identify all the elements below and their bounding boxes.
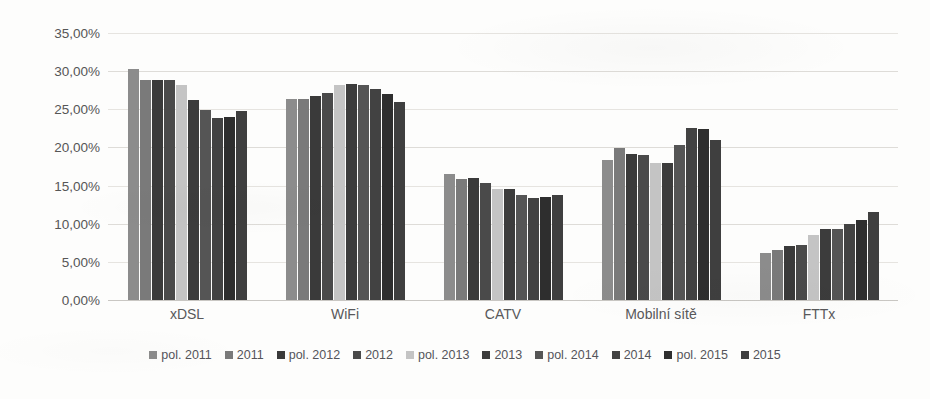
legend-swatch-icon <box>741 351 749 359</box>
bar <box>140 80 151 300</box>
bar <box>298 99 309 300</box>
chart-legend: pol. 20112011pol. 20122012pol. 20132013p… <box>0 348 930 362</box>
y-axis-tick-label: 15,00% <box>4 178 100 193</box>
legend-swatch-icon <box>225 351 233 359</box>
legend-item[interactable]: 2014 <box>612 348 652 362</box>
x-axis-tick-label: xDSL <box>170 306 204 322</box>
y-axis-tick-label: 30,00% <box>4 64 100 79</box>
bar <box>212 118 223 300</box>
bar <box>674 145 685 300</box>
bar <box>528 198 539 300</box>
bar-chart: 0,00%5,00%10,00%15,00%20,00%25,00%30,00%… <box>0 0 930 399</box>
bar <box>650 163 661 300</box>
bar <box>760 253 771 300</box>
legend-item[interactable]: 2015 <box>741 348 781 362</box>
bar <box>480 183 491 300</box>
legend-label: 2014 <box>624 348 652 362</box>
bar <box>382 94 393 300</box>
bar <box>152 80 163 300</box>
bar <box>310 96 321 300</box>
legend-label: 2011 <box>237 348 264 362</box>
bar-group <box>124 33 250 300</box>
bar-group <box>282 33 408 300</box>
y-axis: 0,00%5,00%10,00%15,00%20,00%25,00%30,00%… <box>0 33 100 300</box>
bar <box>286 99 297 300</box>
bar <box>614 148 625 300</box>
y-axis-tick-label: 0,00% <box>4 293 100 308</box>
bar <box>236 111 247 300</box>
gridline <box>108 300 898 301</box>
bar-group <box>756 33 882 300</box>
x-axis-tick-label: WiFi <box>331 306 359 322</box>
bar <box>346 84 357 300</box>
y-axis-tick-label: 25,00% <box>4 102 100 117</box>
legend-item[interactable]: pol. 2013 <box>406 348 469 362</box>
bar <box>224 117 235 300</box>
bar <box>540 197 551 300</box>
bar <box>698 129 709 300</box>
bar <box>662 163 673 300</box>
bar <box>796 245 807 300</box>
bar <box>552 195 563 300</box>
bar <box>456 179 467 300</box>
legend-swatch-icon <box>277 351 285 359</box>
legend-item[interactable]: pol. 2014 <box>535 348 598 362</box>
legend-label: pol. 2015 <box>676 348 727 362</box>
bar <box>784 246 795 300</box>
y-axis-tick-label: 20,00% <box>4 140 100 155</box>
bar <box>868 212 879 300</box>
y-axis-tick-label: 10,00% <box>4 216 100 231</box>
legend-swatch-icon <box>406 351 414 359</box>
legend-label: pol. 2011 <box>161 348 212 362</box>
bar <box>808 235 819 300</box>
bar <box>820 229 831 300</box>
bar-group <box>598 33 724 300</box>
bar <box>188 100 199 300</box>
bar-group <box>440 33 566 300</box>
bar <box>602 160 613 300</box>
legend-item[interactable]: 2012 <box>353 348 393 362</box>
legend-label: 2015 <box>753 348 781 362</box>
bar <box>504 189 515 300</box>
legend-swatch-icon <box>535 351 543 359</box>
bar <box>492 189 503 300</box>
legend-item[interactable]: pol. 2012 <box>277 348 340 362</box>
x-axis-tick-label: FTTx <box>803 306 836 322</box>
bar <box>200 110 211 300</box>
y-axis-tick-label: 5,00% <box>4 254 100 269</box>
bar <box>322 93 333 300</box>
legend-swatch-icon <box>664 351 672 359</box>
y-axis-tick-label: 35,00% <box>4 26 100 41</box>
bar <box>686 128 697 300</box>
x-axis-tick-label: CATV <box>485 306 521 322</box>
x-axis-tick-label: Mobilní sítě <box>625 306 697 322</box>
plot-area <box>108 33 898 300</box>
bar <box>856 220 867 300</box>
legend-item[interactable]: pol. 2015 <box>664 348 727 362</box>
bar <box>394 102 405 300</box>
legend-swatch-icon <box>612 351 620 359</box>
bar <box>176 85 187 300</box>
bar <box>370 89 381 300</box>
legend-swatch-icon <box>353 351 361 359</box>
legend-label: pol. 2013 <box>418 348 469 362</box>
bar <box>772 250 783 300</box>
bar <box>444 174 455 300</box>
legend-label: 2013 <box>494 348 522 362</box>
legend-label: pol. 2012 <box>289 348 340 362</box>
legend-item[interactable]: pol. 2011 <box>149 348 212 362</box>
x-axis: xDSLWiFiCATVMobilní sítěFTTx <box>108 306 898 332</box>
bar <box>710 140 721 300</box>
legend-label: 2012 <box>365 348 393 362</box>
bar <box>844 224 855 300</box>
bar <box>164 80 175 300</box>
bar <box>638 155 649 300</box>
legend-label: pol. 2014 <box>547 348 598 362</box>
bar <box>334 85 345 300</box>
legend-item[interactable]: 2011 <box>225 348 264 362</box>
bar <box>626 154 637 300</box>
bar <box>358 85 369 300</box>
bar <box>468 178 479 300</box>
legend-item[interactable]: 2013 <box>482 348 522 362</box>
bar <box>832 229 843 300</box>
